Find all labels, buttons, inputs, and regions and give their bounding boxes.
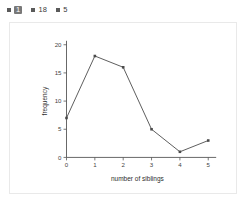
- x-axis-ticks: 012345: [65, 157, 211, 168]
- data-point: [150, 128, 153, 131]
- x-tick-label: 4: [178, 161, 182, 168]
- x-tick-label: 5: [207, 161, 211, 168]
- data-point: [94, 55, 97, 58]
- legend-item-0[interactable]: 1: [7, 6, 22, 15]
- legend-item-label: 18: [38, 6, 47, 14]
- data-point: [179, 151, 182, 154]
- legend-item-1[interactable]: 18: [31, 6, 47, 14]
- y-tick-label: 15: [55, 69, 62, 76]
- y-tick-label: 20: [55, 41, 62, 48]
- x-tick-label: 3: [150, 161, 154, 168]
- x-axis-title: number of siblings: [111, 175, 165, 183]
- data-markers: [65, 55, 209, 153]
- legend-item-2[interactable]: 5: [56, 6, 67, 14]
- data-point: [122, 66, 125, 69]
- legend-swatch-icon: [56, 8, 60, 12]
- data-point: [207, 139, 210, 142]
- legend-swatch-icon: [31, 8, 35, 12]
- line-chart: 05101520 012345 number of siblings frequ…: [10, 23, 236, 193]
- y-axis-title: frequency: [41, 86, 49, 115]
- axes-group: [67, 41, 217, 158]
- legend-item-label: 1: [14, 6, 22, 15]
- chart-card: 05101520 012345 number of siblings frequ…: [9, 22, 237, 194]
- legend-swatch-icon: [7, 8, 11, 12]
- x-tick-label: 2: [121, 161, 125, 168]
- y-tick-label: 0: [58, 154, 62, 161]
- legend-item-label: 5: [63, 6, 67, 14]
- x-tick-label: 0: [65, 161, 69, 168]
- legend-bar: 1 18 5: [0, 0, 247, 15]
- y-tick-label: 5: [58, 125, 62, 132]
- x-tick-label: 1: [93, 161, 97, 168]
- data-point: [65, 117, 68, 120]
- data-series-line: [67, 56, 209, 152]
- y-axis-ticks: 05101520: [55, 41, 67, 161]
- chart-svg: 05101520 012345 number of siblings frequ…: [10, 23, 236, 193]
- y-tick-label: 10: [55, 97, 62, 104]
